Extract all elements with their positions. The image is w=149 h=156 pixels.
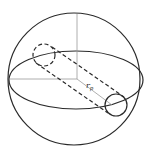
radius-line xyxy=(77,79,112,105)
radius-label: rp xyxy=(86,81,94,92)
equator-ellipse xyxy=(9,51,143,109)
cylinder-edge-lower xyxy=(36,63,108,113)
sphere-diagram: rp xyxy=(0,0,149,156)
